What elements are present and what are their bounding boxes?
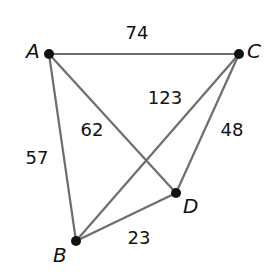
edge-c-b xyxy=(76,54,239,241)
node-b xyxy=(71,236,81,246)
weight-label-a-b: 57 xyxy=(26,147,49,168)
node-label-b: B xyxy=(53,243,67,267)
edge-b-d xyxy=(76,193,176,241)
node-c xyxy=(234,49,244,59)
edges xyxy=(49,54,239,241)
node-label-a: A xyxy=(24,39,40,63)
weight-label-b-d: 23 xyxy=(128,227,151,248)
weight-label-c-d: 48 xyxy=(221,119,244,140)
nodes xyxy=(44,49,244,246)
weight-label-c-b: 123 xyxy=(148,87,182,108)
node-label-d: D xyxy=(183,194,198,218)
weighted-graph-diagram: A B C D 74 57 62 123 48 23 xyxy=(0,0,276,276)
edge-a-d xyxy=(49,54,176,193)
node-label-c: C xyxy=(247,39,261,63)
edge-a-b xyxy=(49,54,76,241)
node-d xyxy=(171,188,181,198)
node-a xyxy=(44,49,54,59)
weight-label-a-d: 62 xyxy=(81,119,104,140)
weight-label-a-c: 74 xyxy=(126,22,149,43)
